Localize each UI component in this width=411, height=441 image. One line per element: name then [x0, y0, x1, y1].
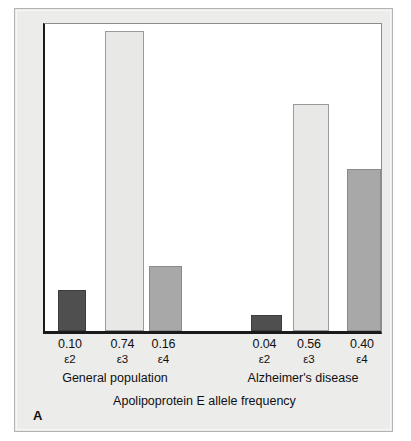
- bar-ε2-0.04: [251, 315, 282, 331]
- bar-ε3-0.74: [105, 31, 144, 331]
- tick-allele: ε3: [279, 352, 339, 367]
- tick-allele: ε4: [332, 352, 392, 367]
- tick-group-0: 0.10ε2: [40, 337, 100, 367]
- plot-frame: [43, 23, 382, 334]
- bar-ε2-0.10: [58, 290, 86, 331]
- panel-letter: A: [33, 408, 42, 423]
- bar-ε4-0.40: [347, 169, 381, 331]
- axis-caption: Apolipoprotein E allele frequency: [15, 394, 394, 409]
- tick-group-4: 0.56ε3: [279, 337, 339, 367]
- tick-value: 0.10: [40, 337, 100, 352]
- tick-group-1: 0.74ε3: [93, 337, 153, 367]
- figure-card: 0.10ε20.74ε30.16ε40.04ε20.56ε30.40ε4Gene…: [14, 8, 393, 432]
- tick-value: 0.16: [134, 337, 194, 352]
- bar-ε3-0.56: [293, 104, 329, 331]
- tick-allele: ε3: [93, 352, 153, 367]
- plot-area: [45, 24, 381, 331]
- group-label-1: Alzheimer's disease: [213, 371, 393, 386]
- bar-ε4-0.16: [149, 266, 182, 331]
- tick-value: 0.40: [332, 337, 392, 352]
- tick-allele: ε2: [40, 352, 100, 367]
- tick-value: 0.04: [235, 337, 295, 352]
- tick-allele: ε4: [134, 352, 194, 367]
- tick-group-2: 0.16ε4: [134, 337, 194, 367]
- tick-value: 0.74: [93, 337, 153, 352]
- group-label-0: General population: [25, 371, 205, 386]
- tick-allele: ε2: [235, 352, 295, 367]
- tick-group-3: 0.04ε2: [235, 337, 295, 367]
- tick-value: 0.56: [279, 337, 339, 352]
- tick-group-5: 0.40ε4: [332, 337, 392, 367]
